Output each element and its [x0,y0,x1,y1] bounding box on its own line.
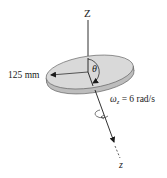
spin-axis-dashed [115,146,120,158]
disk-diagram: Z 125 mm θ z ωz = 6 rad/s [0,0,167,178]
radius-label: 125 mm [8,70,40,80]
vertical-axis-label: Z [84,7,91,19]
theta-label: θ [92,63,97,74]
spin-axis-label: z [118,159,123,170]
rotation-icon [95,110,108,119]
angular-velocity-label: ωz = 6 rad/s [110,94,155,105]
